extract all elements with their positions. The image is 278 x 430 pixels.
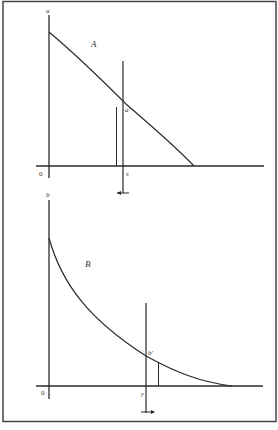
panel-b-title: B (85, 259, 91, 269)
panel-a-title: A (90, 39, 97, 49)
panel-a-y-axis-label: a (46, 7, 50, 15)
panel-a-curve-point-label: a' (125, 106, 131, 114)
panel-b-curve (49, 238, 232, 386)
panel-a-curve (49, 32, 194, 166)
panel-a-arrowhead-icon (117, 191, 121, 195)
panel-a-x-marker-label: s (126, 170, 129, 178)
two-panel-diagram: a A 0 s a' b B 0 y b' (0, 0, 278, 430)
panel-b-origin-label: 0 (41, 389, 45, 397)
panel-a-origin-label: 0 (39, 170, 43, 178)
panel-b (36, 200, 263, 414)
panel-a (36, 15, 264, 195)
panel-b-arrowhead-icon (151, 410, 155, 414)
panel-b-x-marker-label: y (140, 390, 145, 398)
panel-b-y-axis-label: b (46, 191, 50, 199)
panel-b-curve-point-label: b' (148, 349, 154, 357)
figure-frame (3, 2, 276, 422)
